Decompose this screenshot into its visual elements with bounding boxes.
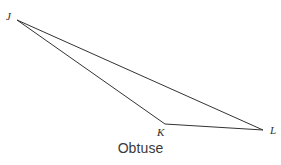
vertex-label-l: L — [270, 125, 276, 136]
vertex-label-k: K — [157, 127, 164, 138]
geometry-figure: J K L Obtuse — [0, 0, 281, 165]
vertex-label-j: J — [6, 11, 11, 22]
triangle-jkl-shape — [17, 20, 263, 130]
figure-caption: Obtuse — [0, 140, 281, 157]
